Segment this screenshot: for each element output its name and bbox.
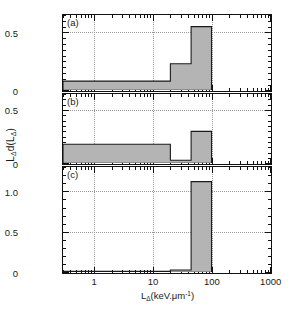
x-tick-label: 1000 xyxy=(260,276,281,287)
histogram-series xyxy=(63,167,270,272)
panel-b-tag: (b) xyxy=(67,96,79,107)
histogram-series xyxy=(63,15,270,90)
histogram-series xyxy=(63,94,270,163)
y-tick-major xyxy=(63,90,69,91)
panel-c-tag: (c) xyxy=(67,169,78,180)
panel-b-plot-area xyxy=(63,94,271,164)
y-tick-major xyxy=(63,272,69,273)
y-tick-label: 0 xyxy=(13,267,18,278)
x-tick-label: 1 xyxy=(91,276,96,287)
y-tick-label: 0 xyxy=(13,158,18,169)
y-tick-label: 0.5 xyxy=(5,105,18,116)
x-tick-label: 100 xyxy=(204,276,220,287)
histogram-figure: LΔd(LΔ) LΔ(keV.μm-1) (a) (b) (c) 0.500.5… xyxy=(0,0,294,311)
histogram-bars xyxy=(63,182,212,273)
y-axis-label: LΔd(LΔ) xyxy=(0,0,22,290)
panel-b-frame xyxy=(62,93,272,165)
x-axis-label: LΔ(keV.μm-1) xyxy=(62,290,273,302)
histogram-bars xyxy=(63,131,212,163)
y-tick-label: 0.5 xyxy=(5,27,18,38)
panel-a-tag: (a) xyxy=(67,17,79,28)
y-tick-major xyxy=(265,90,271,91)
panel-c: (c) xyxy=(62,166,272,274)
y-tick-label: 0 xyxy=(13,85,18,96)
panel-a-frame xyxy=(62,14,272,92)
histogram-bars xyxy=(63,27,212,91)
y-tick-label: 0.5 xyxy=(5,227,18,238)
y-axis-label-text: LΔd(LΔ) xyxy=(5,128,17,162)
panel-c-plot-area xyxy=(63,167,271,273)
panel-a: (a) xyxy=(62,14,272,92)
y-tick-label: 1.0 xyxy=(5,186,18,197)
panel-b: (b) xyxy=(62,93,272,165)
x-tick-label: 10 xyxy=(148,276,159,287)
y-tick-major xyxy=(63,163,69,164)
y-tick-major xyxy=(265,163,271,164)
y-tick-major xyxy=(265,272,271,273)
panel-a-plot-area xyxy=(63,15,271,91)
panel-c-frame xyxy=(62,166,272,274)
